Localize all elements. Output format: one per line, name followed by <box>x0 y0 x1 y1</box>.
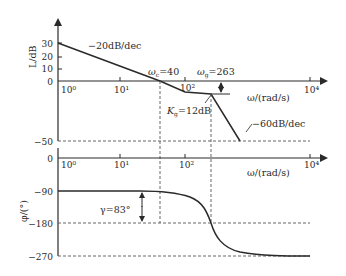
phase-curve <box>58 191 310 256</box>
mag-tick-10: 10 <box>42 64 54 74</box>
mag-tick-20: 20 <box>42 52 54 62</box>
magnitude-curve <box>58 43 240 141</box>
phase-y-label: φ/(°) <box>18 200 29 222</box>
phase-plot: 10⁰ 10¹ 10² 10⁴ 0 −90 −180 −270 φ/(°) ω/… <box>18 148 326 262</box>
magnitude-plot: 30 20 10 0 −50 10⁰ 10¹ 10² 10⁴ L/dB ω/(r… <box>27 20 326 147</box>
mag-xtick-1e0: 10⁰ <box>61 85 76 95</box>
mag-xtick-1e1: 10¹ <box>114 85 129 95</box>
mag-y-label: L/dB <box>27 45 38 68</box>
ph-tick-minus90: −90 <box>34 187 53 197</box>
mag-tick-30: 30 <box>42 39 54 49</box>
mag-xtick-1e4: 10⁴ <box>304 85 319 95</box>
gamma-label: γ=83° <box>100 204 130 215</box>
mag-tick-minus50: −50 <box>34 137 53 147</box>
ph-tick-minus180: −180 <box>28 219 53 229</box>
wc-label: ωc=40 <box>148 66 179 78</box>
wg-label: ωg=263 <box>197 66 235 79</box>
kg-label: Kg=12dB <box>166 105 211 118</box>
ph-xtick-1e1: 10¹ <box>114 160 129 170</box>
ph-tick-minus270: −270 <box>28 252 53 262</box>
kg-leader <box>205 95 211 103</box>
ph-tick-0: 0 <box>47 154 53 164</box>
slope-label-minus60: −60dB/dec <box>252 118 305 129</box>
bode-diagram: 30 20 10 0 −50 10⁰ 10¹ 10² 10⁴ L/dB ω/(r… <box>0 0 346 276</box>
phase-x-label: ω/(rad/s) <box>247 167 290 178</box>
slope-label-minus20: −20dB/dec <box>88 40 141 51</box>
ph-xtick-1e0: 10⁰ <box>61 160 76 170</box>
ph-xtick-1e2: 10² <box>179 160 194 170</box>
mag-tick-0: 0 <box>47 77 53 87</box>
mag-x-label: ω/(rad/s) <box>247 92 290 103</box>
ph-xtick-1e4: 10⁴ <box>304 160 319 170</box>
